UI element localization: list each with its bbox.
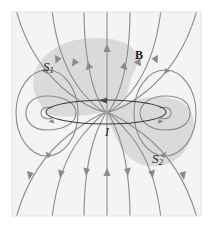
label-surface-s2: S2	[152, 152, 163, 167]
label-surface-s1: S1	[43, 60, 54, 75]
label-magnetic-field: B	[135, 49, 143, 61]
label-surface-s2-subscript: 2	[159, 157, 163, 167]
label-current: I	[105, 126, 109, 138]
magnetic-field-diagram	[0, 0, 216, 228]
figure-container: S1 S2 I B	[0, 0, 216, 228]
label-surface-s1-subscript: 1	[50, 65, 54, 75]
